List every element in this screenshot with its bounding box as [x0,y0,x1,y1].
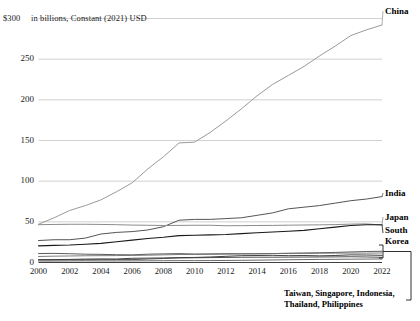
leader-line-china [382,11,383,25]
series-label-india: India [385,188,406,199]
y-tick-label-100: 100 [0,175,34,185]
grouped-series-caption-line1: Taiwan, Singapore, Indonesia, [284,288,395,299]
x-tick-label-2022: 2022 [362,266,402,276]
y-tick-label-50: 50 [0,216,34,226]
series-line-japan [39,224,383,226]
series-line-china [39,25,383,224]
series-line-india [39,197,383,241]
series-label-south-korea-line2: Korea [385,236,409,247]
series-label-japan: Japan [385,212,409,223]
gridlines-group [39,19,383,263]
y-tick-label-150: 150 [0,135,34,145]
y-tick-label-250: 250 [0,53,34,63]
y-axis-top-label: $300 [3,13,20,23]
y-tick-label-200: 200 [0,94,34,104]
series-line-south-korea [39,225,383,246]
chart-page: $300 in billions, Constant (2021) USD 05… [0,0,420,321]
series-label-china: China [385,6,409,17]
leader-line-japan [382,217,383,225]
grouped-series-caption-line2: Thailand, Philippines [284,299,363,310]
leader-line-india [382,193,383,197]
series-label-south-korea-line1: South [385,225,408,236]
axis-unit-note: in billions, Constant (2021) USD [31,13,147,23]
leader-line-south-korea [382,225,383,233]
series-paths-group [39,11,384,261]
